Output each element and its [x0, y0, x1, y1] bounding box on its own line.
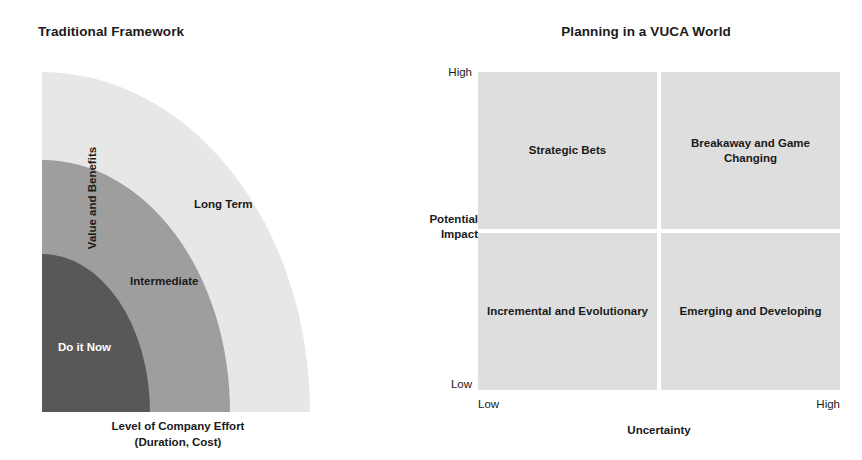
left-x-axis-label-line2: (Duration, Cost): [28, 434, 328, 450]
quadrant-emerging-and-developing: Emerging and Developing: [661, 233, 840, 390]
vuca-matrix-panel: Planning in a VUCA World Strategic Bets …: [430, 0, 862, 460]
left-x-axis-label: Level of Company Effort (Duration, Cost): [28, 418, 328, 450]
quadrant-incremental-and-evolutionary: Incremental and Evolutionary: [478, 233, 657, 390]
right-chart-title: Planning in a VUCA World: [430, 24, 862, 39]
right-x-axis-label: Uncertainty: [478, 424, 840, 436]
zone-label-do-it-now: Do it Now: [58, 341, 111, 353]
y-axis-tick-high: High: [438, 66, 472, 78]
zone-label-long-term: Long Term: [194, 198, 253, 210]
left-y-axis-label: Value and Benefits: [86, 98, 98, 298]
right-y-axis-label-line2: Impact: [416, 227, 478, 242]
x-axis-tick-high: High: [802, 398, 840, 410]
zone-label-intermediate: Intermediate: [130, 275, 198, 287]
x-axis-tick-low: Low: [478, 398, 499, 410]
quadrant-strategic-bets: Strategic Bets: [478, 72, 657, 229]
traditional-framework-panel: Traditional Framework Long Term Intermed…: [0, 0, 430, 460]
right-y-axis-label-line1: Potential: [416, 212, 478, 227]
concentric-quadrant-diagram: Long Term Intermediate Do it Now: [42, 72, 310, 412]
left-x-axis-label-line1: Level of Company Effort: [28, 418, 328, 434]
y-axis-tick-low: Low: [438, 378, 472, 390]
vuca-2x2-matrix: Strategic Bets Breakaway and Game Changi…: [478, 72, 840, 390]
right-y-axis-label: Potential Impact: [416, 212, 478, 242]
quadrant-breakaway-and-game-changing: Breakaway and Game Changing: [661, 72, 840, 229]
left-chart-title: Traditional Framework: [38, 24, 184, 39]
